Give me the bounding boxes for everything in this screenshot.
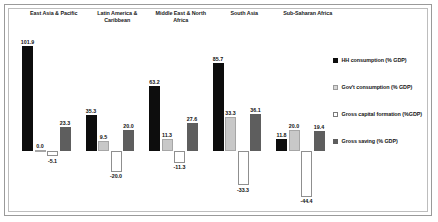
bar-2-3[interactable]	[187, 123, 198, 151]
legend-swatch-icon	[333, 85, 338, 90]
bar-3-1[interactable]	[225, 117, 236, 151]
bar-4-1[interactable]	[289, 130, 300, 151]
legend-swatch-icon	[333, 112, 338, 117]
bar-group-3: 85.733.3-33.336.1	[213, 9, 277, 211]
value-label-4-1: 20.0	[284, 123, 305, 129]
value-label-4-2: -44.4	[296, 198, 317, 204]
value-label-0-1: 0.0	[30, 143, 51, 149]
value-label-0-2: -5.1	[42, 158, 63, 164]
legend-label: HH consumption (% GDP)	[342, 57, 407, 63]
bar-group-1: 35.39.5-20.020.0	[86, 9, 150, 211]
legend-item-3[interactable]: Gross saving (% GDP)	[333, 136, 398, 146]
value-label-2-0: 63.2	[144, 79, 165, 85]
value-label-1-2: -20.0	[106, 173, 127, 179]
bar-2-2[interactable]	[174, 151, 185, 163]
bar-group-2: 63.211.3-11.327.6	[149, 9, 213, 211]
legend-item-1[interactable]: Gov't consumption (% GDP)	[333, 82, 412, 92]
value-label-0-0: 101.9	[17, 39, 38, 45]
legend-swatch-icon	[333, 58, 338, 63]
legend-label: Gross saving (% GDP)	[342, 138, 398, 144]
bar-0-1[interactable]	[35, 150, 46, 152]
value-label-3-1: 33.3	[220, 110, 241, 116]
plot-area: 101.90.0-5.123.335.39.5-20.020.063.211.3…	[9, 9, 327, 211]
value-label-0-3: 23.3	[55, 120, 76, 126]
bar-group-4: 11.820.0-44.419.4	[276, 9, 340, 211]
value-label-2-2: -11.3	[169, 164, 190, 170]
value-label-2-1: 11.3	[157, 132, 178, 138]
bar-4-3[interactable]	[314, 131, 325, 151]
legend-item-2[interactable]: Gross capital formation (%GDP)	[333, 109, 422, 119]
bar-2-1[interactable]	[162, 139, 173, 151]
value-label-1-0: 35.3	[81, 108, 102, 114]
legend-label: Gross capital formation (%GDP)	[342, 111, 423, 117]
legend-item-0[interactable]: HH consumption (% GDP)	[333, 55, 407, 65]
value-label-3-3: 36.1	[245, 107, 266, 113]
bar-4-2[interactable]	[301, 151, 312, 197]
chart-outer-frame: East Asia & PacificLatin America &Caribb…	[4, 4, 432, 216]
value-label-3-0: 85.7	[208, 56, 229, 62]
bar-1-2[interactable]	[111, 151, 122, 172]
bar-0-2[interactable]	[47, 151, 58, 156]
bar-group-0: 101.90.0-5.123.3	[22, 9, 86, 211]
bar-4-0[interactable]	[276, 139, 287, 151]
bar-3-3[interactable]	[250, 114, 261, 151]
bar-3-2[interactable]	[238, 151, 249, 185]
bar-0-0[interactable]	[22, 46, 33, 151]
bar-1-1[interactable]	[98, 141, 109, 151]
value-label-4-3: 19.4	[309, 124, 330, 130]
value-label-1-1: 9.5	[93, 134, 114, 140]
legend-label: Gov't consumption (% GDP)	[342, 84, 413, 90]
value-label-1-3: 20.0	[118, 123, 139, 129]
bar-0-3[interactable]	[60, 127, 71, 151]
bar-1-0[interactable]	[86, 115, 97, 151]
bar-3-0[interactable]	[213, 63, 224, 151]
bar-1-3[interactable]	[123, 130, 134, 151]
value-label-2-3: 27.6	[182, 116, 203, 122]
chart-inner-frame: East Asia & PacificLatin America &Caribb…	[8, 8, 428, 212]
value-label-3-2: -33.3	[233, 187, 254, 193]
legend-swatch-icon	[333, 139, 338, 144]
bar-2-0[interactable]	[149, 86, 160, 151]
